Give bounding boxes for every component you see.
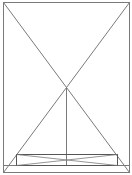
geometric-diagram xyxy=(0,0,132,175)
